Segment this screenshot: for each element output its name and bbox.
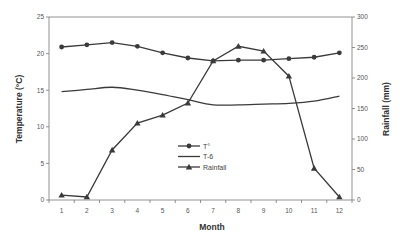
x-tick-label: 11 (311, 207, 318, 214)
circle-marker-icon (286, 56, 291, 61)
y2-tick-label: 150 (357, 105, 368, 112)
series-rainfall (58, 43, 342, 199)
y-tick-label: 20 (37, 50, 45, 57)
series-line (62, 87, 340, 105)
x-tick-label: 10 (285, 207, 293, 214)
y2-tick-label: 300 (357, 13, 368, 20)
chart-container: 0510152025050100150200250300123456789101… (0, 0, 406, 243)
x-tick-label: 7 (211, 207, 215, 214)
x-tick-label: 5 (161, 207, 165, 214)
series-line (62, 46, 340, 197)
y2-axis-title: Rainfall (mm) (381, 82, 391, 136)
legend-item: Rainfall (178, 164, 227, 171)
x-tick-label: 4 (136, 207, 140, 214)
circle-marker-icon (160, 50, 165, 55)
x-tick-label: 2 (85, 207, 89, 214)
x-tick-label: 8 (237, 207, 241, 214)
circle-marker-icon (59, 45, 64, 50)
y-tick-label: 25 (37, 13, 45, 20)
y-tick-label: 15 (37, 87, 45, 94)
x-tick-label: 3 (110, 207, 114, 214)
series-line (62, 43, 340, 61)
x-tick-label: 6 (186, 207, 190, 214)
circle-marker-icon (261, 58, 266, 63)
circle-marker-icon (236, 58, 241, 63)
y-tick-label: 0 (40, 196, 44, 203)
y-axis-title: Temperature (°C) (14, 75, 24, 144)
legend-label: T° (203, 143, 210, 150)
x-tick-label: 1 (60, 207, 64, 214)
series-t-6 (62, 87, 340, 105)
series-t- (59, 40, 342, 63)
triangle-marker-icon (311, 165, 317, 171)
y2-tick-label: 100 (357, 135, 368, 142)
y2-tick-label: 250 (357, 44, 368, 51)
legend-label: Rainfall (203, 164, 227, 171)
circle-marker-icon (110, 40, 115, 45)
line-chart: 0510152025050100150200250300123456789101… (0, 0, 406, 243)
series-group (58, 40, 342, 199)
legend-item: T° (178, 143, 210, 150)
y-tick-label: 5 (40, 160, 44, 167)
circle-marker-icon (187, 144, 192, 149)
legend-label: T-6 (203, 153, 213, 160)
y2-tick-label: 0 (357, 196, 361, 203)
x-tick-label: 9 (262, 207, 266, 214)
y-tick-label: 10 (37, 123, 45, 130)
legend-item: T-6 (178, 153, 213, 160)
circle-marker-icon (337, 50, 342, 55)
legend: T°T-6Rainfall (178, 143, 227, 171)
circle-marker-icon (84, 42, 89, 47)
circle-marker-icon (312, 55, 317, 60)
x-tick-label: 12 (336, 207, 344, 214)
y2-tick-label: 200 (357, 74, 368, 81)
circle-marker-icon (185, 56, 190, 61)
circle-marker-icon (135, 44, 140, 49)
y2-tick-label: 50 (357, 166, 365, 173)
x-axis-title: Month (199, 222, 225, 232)
triangle-marker-icon (235, 43, 241, 49)
